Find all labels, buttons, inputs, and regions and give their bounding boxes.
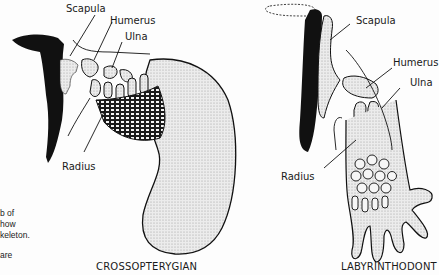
label-radius-right: Radius — [281, 172, 315, 182]
cleithrum-black — [12, 34, 64, 163]
label-scapula-left: Scapula — [66, 4, 106, 14]
labyrinthodont-limb — [266, 4, 433, 262]
limb-comparison-figure: Scapula Humerus Ulna Radius CROSSOPTERYG… — [0, 0, 439, 275]
label-ulna-right: Ulna — [410, 78, 433, 88]
label-humerus-left: Humerus — [110, 16, 155, 26]
side-text-line-1: b of — [0, 209, 14, 218]
label-humerus-right: Humerus — [393, 58, 438, 68]
side-text-line-4: are — [0, 251, 12, 260]
humerus-bone — [82, 59, 99, 77]
hand-outline — [346, 100, 432, 262]
scapula-bone — [318, 16, 340, 118]
caption-crossopterygian: CROSSOPTERYGIAN — [96, 262, 197, 272]
side-text-line-2: how — [0, 220, 16, 229]
label-ulna-left: Ulna — [125, 32, 148, 42]
caption-labyrinthodont: LABYRINTHODONT — [341, 262, 437, 272]
scapula-bone — [60, 59, 78, 94]
humerus-bone — [343, 76, 378, 98]
crossopterygian-fin — [12, 15, 236, 254]
side-text-line-3: keleton. — [0, 231, 30, 240]
label-radius-left: Radius — [62, 162, 96, 172]
label-scapula-right: Scapula — [356, 16, 396, 26]
ulna-bone — [104, 66, 117, 78]
diagram-art — [0, 0, 439, 275]
